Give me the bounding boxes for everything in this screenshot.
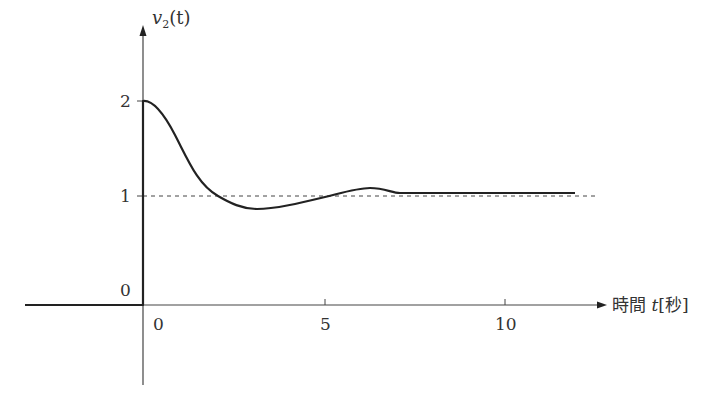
y-tick-label-2: 2 xyxy=(120,91,131,111)
x-axis-label-unit: [秒] xyxy=(658,295,688,315)
x-tick-label-0: 0 xyxy=(153,314,164,334)
x-axis-label-prefix: 時間 xyxy=(612,295,651,315)
x-tick-label-5: 5 xyxy=(320,314,331,334)
x-tick-label-10: 10 xyxy=(495,314,517,334)
y-axis-arrow-icon xyxy=(140,25,147,36)
y-axis-label: v2(t) xyxy=(152,7,190,31)
y-axis-label-var: v xyxy=(152,7,162,28)
y-axis-label-sub: 2 xyxy=(162,18,169,31)
y-axis-label-arg: (t) xyxy=(169,7,190,28)
signal-curve xyxy=(25,101,575,305)
y-tick-label-0: 0 xyxy=(120,280,131,300)
x-axis-label: 時間 t[秒] xyxy=(612,295,689,315)
step-response-chart: 2 1 0 0 5 10 v2(t) 時間 t[秒] xyxy=(0,0,715,396)
x-axis-arrow-icon xyxy=(597,302,607,309)
y-tick-label-1: 1 xyxy=(120,186,131,206)
